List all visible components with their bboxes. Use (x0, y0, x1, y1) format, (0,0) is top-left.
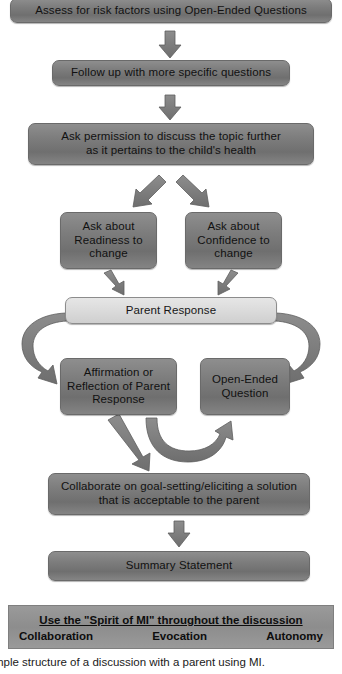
node-affirmation-line2: Reflection of Parent (67, 380, 170, 392)
node-ask-confidence[interactable]: Ask about Confidence to change (185, 212, 282, 269)
arrow-followup-to-permission (159, 95, 181, 120)
principle-evocation: Evocation (152, 630, 207, 642)
spirit-of-mi-principles: Collaboration Evocation Autonomy (15, 630, 327, 642)
node-summary-label: Summary Statement (49, 559, 309, 573)
node-parent-response-label: Parent Response (66, 304, 276, 318)
node-affirmation-reflection[interactable]: Affirmation or Reflection of Parent Resp… (60, 358, 177, 415)
arrow-affirmation-to-collaborate (108, 414, 150, 471)
arrow-collaborate-to-summary (168, 521, 190, 547)
node-open-ended-question[interactable]: Open-Ended Question (200, 358, 290, 415)
node-affirmation-line3: Response (92, 393, 145, 405)
figure-caption: mple structure of a discussion with a pa… (0, 656, 265, 668)
node-affirmation-line1: Affirmation or (84, 366, 154, 378)
node-follow-up-label: Follow up with more specific questions (53, 66, 289, 80)
principle-collaboration: Collaboration (19, 630, 93, 642)
principle-autonomy: Autonomy (266, 630, 323, 642)
node-ask-permission-line2: as it pertains to the child's health (86, 144, 256, 156)
arrow-confidence-to-response (218, 270, 238, 295)
spirit-of-mi-banner: Use the "Spirit of MI" throughout the di… (8, 605, 334, 649)
node-assess-label: Assess for risk factors using Open-Ended… (11, 4, 331, 18)
node-collaborate-goal-setting[interactable]: Collaborate on goal-setting/eliciting a … (48, 473, 310, 515)
node-ask-permission-line1: Ask permission to discuss the topic furt… (61, 130, 281, 142)
flowchart-canvas: Assess for risk factors using Open-Ended… (0, 0, 342, 674)
node-confidence-line2: Confidence to (197, 234, 269, 246)
node-ask-permission[interactable]: Ask permission to discuss the topic furt… (28, 123, 314, 165)
node-readiness-line3: change (89, 247, 127, 259)
node-collaborate-line1: Collaborate on goal-setting/eliciting a … (61, 480, 297, 492)
node-open-ended-line2: Question (222, 387, 269, 399)
arrow-permission-to-readiness (133, 175, 166, 207)
node-ask-readiness[interactable]: Ask about Readiness to change (60, 212, 157, 269)
node-summary-statement[interactable]: Summary Statement (48, 551, 310, 581)
node-assess-risk-factors[interactable]: Assess for risk factors using Open-Ended… (10, 0, 332, 23)
node-open-ended-line1: Open-Ended (212, 373, 278, 385)
node-follow-up[interactable]: Follow up with more specific questions (52, 60, 290, 86)
arrow-assess-to-followup (159, 31, 181, 58)
node-collaborate-line2: that is acceptable to the parent (99, 494, 259, 506)
arrow-permission-to-confidence (176, 175, 209, 207)
node-parent-response[interactable]: Parent Response (65, 297, 277, 324)
node-confidence-line3: change (214, 247, 252, 259)
node-readiness-line2: Readiness to (74, 234, 142, 246)
node-readiness-line1: Ask about (82, 220, 134, 232)
spirit-of-mi-title: Use the "Spirit of MI" throughout the di… (15, 614, 327, 626)
arrow-affirmation-to-openended (146, 418, 233, 462)
arrow-readiness-to-response (104, 270, 124, 295)
node-confidence-line1: Ask about (207, 220, 259, 232)
